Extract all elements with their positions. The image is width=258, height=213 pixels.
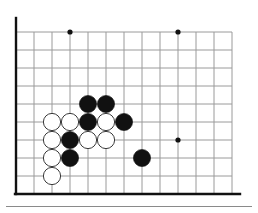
white-stone[interactable] <box>43 113 60 130</box>
go-board[interactable] <box>0 0 258 200</box>
star-point <box>67 29 72 34</box>
black-stone[interactable] <box>61 131 78 148</box>
black-stone[interactable] <box>79 95 96 112</box>
go-board-canvas[interactable] <box>0 0 258 200</box>
diagram-root <box>0 0 258 213</box>
white-stone[interactable] <box>97 113 114 130</box>
black-stone[interactable] <box>97 95 114 112</box>
white-stone[interactable] <box>97 131 114 148</box>
white-stone[interactable] <box>61 113 78 130</box>
black-stone[interactable] <box>133 149 150 166</box>
white-stone[interactable] <box>43 167 60 184</box>
white-stone[interactable] <box>43 149 60 166</box>
star-point <box>175 29 180 34</box>
star-point <box>175 137 180 142</box>
white-stone[interactable] <box>79 131 96 148</box>
black-stone[interactable] <box>61 149 78 166</box>
black-stone[interactable] <box>79 113 96 130</box>
black-stone[interactable] <box>115 113 132 130</box>
white-stone[interactable] <box>43 131 60 148</box>
bottom-divider-rule <box>6 206 252 207</box>
